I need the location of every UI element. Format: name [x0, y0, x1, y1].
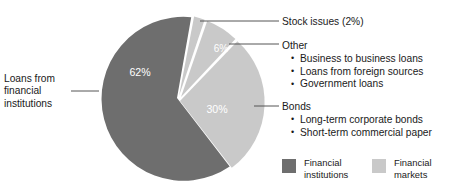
list-item: Loans from foreign sources: [291, 66, 423, 79]
callout-bonds-list: Long-term corporate bonds Short-term com…: [282, 114, 432, 140]
callout-loans-from-financial-institutions: Loans from financial institutions: [4, 73, 88, 110]
callout-loans-line-3: institutions: [4, 98, 88, 110]
list-item: Short-term commercial paper: [291, 127, 432, 140]
callout-loans-line-1: Loans from: [4, 73, 88, 85]
callout-stock-issues: Stock issues (2%): [282, 16, 364, 29]
callout-bonds-heading: Bonds: [282, 101, 432, 114]
callout-loans-line-2: financial: [4, 85, 88, 97]
legend-swatch-icon: [282, 159, 296, 173]
legend-item-label: Financial institutions: [304, 157, 368, 180]
legend-label-line-1: Financial: [394, 157, 432, 168]
callout-bonds: Bonds Long-term corporate bonds Short-te…: [282, 101, 432, 139]
pie-label-bonds: 30%: [206, 103, 228, 115]
callout-other-heading: Other: [282, 40, 423, 53]
callout-other-list: Business to business loans Loans from fo…: [282, 53, 423, 92]
pie-label-other: 6%: [214, 43, 229, 54]
chart-legend: Financial institutions Financial markets: [282, 158, 454, 188]
list-item: Long-term corporate bonds: [291, 114, 432, 127]
legend-label-line-2: markets: [394, 169, 456, 181]
list-item: Government loans: [291, 78, 423, 91]
legend-item-label: Financial markets: [394, 157, 456, 180]
legend-swatch-icon: [372, 159, 386, 173]
list-item: Business to business loans: [291, 53, 423, 66]
pie-label-financial-institutions: 62%: [129, 66, 151, 78]
callout-stock-issues-heading: Stock issues (2%): [282, 16, 364, 29]
pie-chart-figure: 62% 30% 6% Loans from financial institut…: [0, 0, 456, 194]
legend-label-line-2: institutions: [304, 169, 368, 181]
legend-label-line-1: Financial: [304, 157, 342, 168]
callout-other: Other Business to business loans Loans f…: [282, 40, 423, 91]
